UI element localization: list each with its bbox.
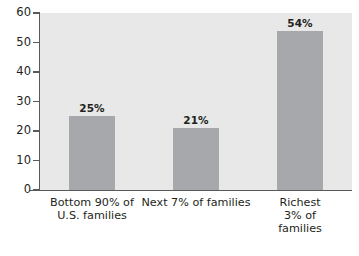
bar-value-label: 25% <box>79 102 104 114</box>
y-axis-tick <box>33 130 40 131</box>
y-axis-tick-label: 30 <box>3 96 31 108</box>
x-axis-category-label: Richest 3% of families <box>271 196 330 236</box>
bar-value-label: 54% <box>287 17 312 29</box>
y-axis-tick <box>33 42 40 43</box>
bar <box>173 128 219 190</box>
y-axis-tick-label: 50 <box>3 37 31 49</box>
x-axis-line <box>30 190 352 191</box>
y-axis-tick-label: 20 <box>3 125 31 137</box>
x-axis-category-label: Next 7% of families <box>142 196 251 209</box>
y-axis-tick <box>33 101 40 102</box>
y-axis-tick <box>33 71 40 72</box>
y-axis-tick <box>33 160 40 161</box>
y-axis-tick-label: 10 <box>3 155 31 167</box>
bar-chart-figure: 0102030405060 25%21%54% Bottom 90% of U.… <box>0 0 359 256</box>
bar-value-label: 21% <box>183 114 208 126</box>
y-axis-tick-label: 60 <box>3 7 31 19</box>
bar <box>277 31 323 190</box>
y-axis-tick-label: 0 <box>3 184 31 196</box>
y-axis-tick-label: 40 <box>3 66 31 78</box>
bar <box>69 116 115 190</box>
x-axis-category-label: Bottom 90% of U.S. families <box>50 196 134 222</box>
y-axis-tick <box>33 189 40 190</box>
y-axis-tick <box>33 12 40 13</box>
